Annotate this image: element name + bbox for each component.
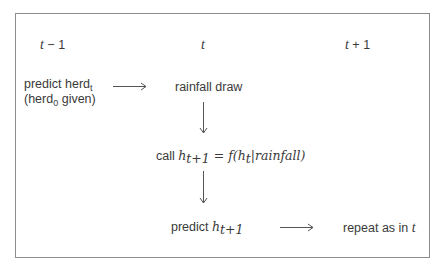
arrow-right-icon	[113, 83, 146, 90]
arrows-layer	[0, 0, 447, 272]
arrow-right-icon	[280, 224, 313, 231]
arrow-down-icon	[200, 102, 207, 133]
arrow-down-icon	[200, 171, 207, 203]
